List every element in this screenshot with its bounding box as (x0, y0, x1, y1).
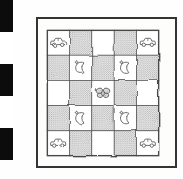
quilt-cell-shade (69, 131, 91, 156)
scale-segment-black (0, 0, 13, 32)
quilt-svg (47, 30, 159, 156)
picture-frame (36, 17, 177, 168)
quilt-cell-shade (69, 80, 91, 105)
quilt-cell-plain (47, 80, 69, 105)
quilt-cell-shade (92, 55, 114, 80)
quilt-cell-shade (114, 30, 136, 55)
quilt-cell-plain (92, 30, 114, 55)
scale-segment-white (0, 96, 13, 128)
quilt-drawing (47, 30, 159, 156)
quilt-cell-shade (47, 55, 69, 80)
quilt-cell-shade (47, 106, 69, 131)
photo-scale-bar (0, 0, 13, 160)
scale-segment-black (0, 128, 13, 160)
quilt-cell-shade (114, 131, 136, 156)
quilt-cell-shade (137, 55, 159, 80)
quilt-cell-shade (92, 106, 114, 131)
quilt-cell-plain (92, 131, 114, 156)
scale-segment-black (0, 64, 13, 96)
quilt-cell-shade (137, 106, 159, 131)
quilt-cell-plain (137, 80, 159, 105)
scale-segment-white (0, 32, 13, 64)
quilt-cell-shade (69, 30, 91, 55)
scanned-illustration (0, 0, 183, 179)
quilt-cell-shade (114, 80, 136, 105)
